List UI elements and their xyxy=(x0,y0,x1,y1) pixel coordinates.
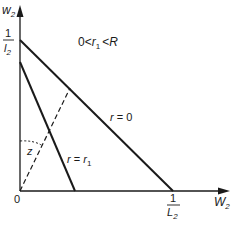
y-intercept-denominator: l2 xyxy=(4,42,11,57)
line-r-r1 xyxy=(20,62,75,191)
x-intercept-numerator: 1 xyxy=(170,192,176,204)
origin-label: 0 xyxy=(14,193,20,205)
x-axis-label: W2 xyxy=(214,195,230,211)
x-intercept-denominator: L2 xyxy=(167,206,178,221)
condition-label: 0<r1<R xyxy=(78,35,118,51)
dashed-ray xyxy=(20,88,70,191)
angle-label: z xyxy=(26,145,33,157)
y-intercept-numerator: 1 xyxy=(5,27,11,39)
y-axis-arrow-icon xyxy=(17,5,24,17)
line-r0-label: r = 0 xyxy=(110,111,132,123)
budget-diagram: w2 1 l2 0<r1<R r = 0 r = r1 z 0 1 L2 W2 xyxy=(0,0,235,226)
line-r1-label: r = r1 xyxy=(67,153,92,168)
x-axis-arrow-icon xyxy=(218,188,230,195)
y-axis-label: w2 xyxy=(2,3,16,19)
